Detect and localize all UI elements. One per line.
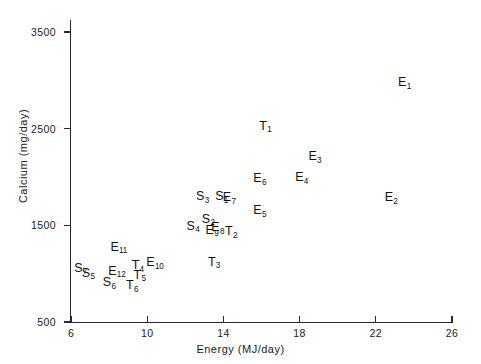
data-point-e10: E10 bbox=[146, 256, 163, 269]
data-point-subscript: 2 bbox=[233, 230, 237, 239]
data-point-letter: S bbox=[187, 219, 195, 233]
data-point-t1: T1 bbox=[259, 120, 271, 133]
data-point-subscript: 1 bbox=[224, 196, 228, 205]
data-point-letter: E bbox=[110, 239, 118, 253]
data-point-letter: S bbox=[74, 261, 82, 275]
data-point-letter: E bbox=[146, 255, 154, 269]
data-point-subscript: 9 bbox=[214, 229, 218, 238]
data-point-letter: S bbox=[103, 275, 111, 289]
data-point-e1: E1 bbox=[398, 76, 411, 89]
data-point-subscript: 6 bbox=[262, 178, 266, 187]
data-point-subscript: 2 bbox=[393, 197, 397, 206]
data-point-e6: E6 bbox=[253, 172, 266, 185]
data-point-letter: S bbox=[215, 189, 223, 203]
data-point-letter: E bbox=[385, 190, 393, 204]
y-axis-tick-label: 3500 bbox=[10, 26, 56, 38]
data-point-subscript: 4 bbox=[304, 176, 308, 185]
y-axis-tick bbox=[64, 128, 71, 129]
x-axis-title: Energy (MJ/day) bbox=[0, 343, 481, 355]
data-point-subscript: 3 bbox=[205, 196, 209, 205]
data-point-t6: T6 bbox=[126, 279, 138, 292]
data-point-s3: S3 bbox=[196, 190, 209, 203]
data-point-s7: S7 bbox=[74, 262, 87, 275]
data-point-t2: T2 bbox=[225, 225, 237, 238]
y-axis-tick bbox=[64, 225, 71, 226]
data-point-letter: S bbox=[196, 189, 204, 203]
data-point-subscript: 6 bbox=[134, 285, 138, 294]
data-point-subscript: 5 bbox=[262, 210, 266, 219]
y-axis-tick-label: 500 bbox=[10, 316, 56, 328]
data-point-subscript: 5 bbox=[90, 272, 94, 281]
data-point-subscript: 3 bbox=[216, 261, 220, 270]
data-point-subscript: 7 bbox=[231, 197, 235, 206]
x-axis-tick-label: 6 bbox=[51, 327, 91, 339]
data-point-subscript: 8 bbox=[220, 227, 224, 236]
data-point-subscript: 7 bbox=[83, 267, 87, 276]
data-point-letter: T bbox=[126, 278, 134, 292]
y-axis-tick bbox=[64, 31, 71, 32]
data-point-e3: E3 bbox=[308, 150, 321, 163]
data-point-s6: S6 bbox=[103, 276, 116, 289]
data-point-t3: T3 bbox=[208, 255, 220, 268]
x-axis-tick-label: 14 bbox=[203, 327, 243, 339]
data-point-subscript: 5 bbox=[142, 274, 146, 283]
data-point-s2: S2 bbox=[202, 212, 215, 225]
data-point-subscript: 1 bbox=[407, 82, 411, 91]
data-point-s1: S1 bbox=[215, 190, 228, 203]
data-point-letter: S bbox=[202, 211, 210, 225]
x-axis-tick-label: 22 bbox=[356, 327, 396, 339]
data-point-letter: T bbox=[208, 254, 216, 268]
data-point-subscript: 11 bbox=[119, 246, 127, 255]
data-point-letter: T bbox=[259, 119, 267, 133]
data-point-subscript: 10 bbox=[155, 261, 164, 270]
data-point-e2: E2 bbox=[385, 191, 398, 204]
data-point-e11: E11 bbox=[110, 240, 126, 253]
x-axis-tick-label: 10 bbox=[127, 327, 167, 339]
data-point-subscript: 2 bbox=[210, 218, 214, 227]
scatter-plot-figure: 500150025003500 61014182226 Calcium (mg/… bbox=[0, 0, 481, 364]
data-point-subscript: 6 bbox=[111, 282, 115, 291]
x-axis-tick-label: 18 bbox=[280, 327, 320, 339]
data-point-letter: E bbox=[398, 75, 406, 89]
data-point-subscript: 4 bbox=[195, 225, 199, 234]
data-point-s4: S4 bbox=[187, 220, 200, 233]
data-point-letter: E bbox=[295, 170, 303, 184]
data-point-e5: E5 bbox=[253, 204, 266, 217]
data-point-subscript: 12 bbox=[117, 270, 126, 279]
data-point-subscript: 3 bbox=[317, 156, 321, 165]
data-point-subscript: 1 bbox=[267, 125, 271, 134]
data-point-letter: E bbox=[253, 203, 261, 217]
data-point-letter: E bbox=[253, 171, 261, 185]
data-point-letter: E bbox=[308, 149, 316, 163]
data-point-e4: E4 bbox=[295, 171, 308, 184]
x-axis-tick-label: 26 bbox=[432, 327, 472, 339]
y-axis-title: Calcium (mg/day) bbox=[17, 56, 29, 256]
data-point-letter: T bbox=[225, 224, 233, 238]
